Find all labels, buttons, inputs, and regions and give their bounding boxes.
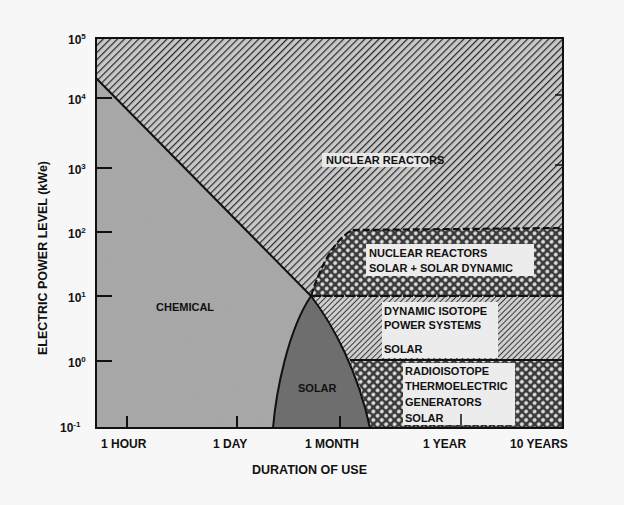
y-tick-1e1: 101 [68, 290, 86, 305]
x-tick-1-hour: 1 HOUR [101, 437, 147, 451]
label-solar: SOLAR [298, 382, 337, 394]
y-tick-1e3: 103 [68, 162, 86, 177]
y-axis-title: ELECTRIC POWER LEVEL (kWe) [36, 161, 50, 355]
label-dips-3: SOLAR [384, 343, 423, 355]
label-rtg-2: THERMOELECTRIC [405, 380, 508, 392]
label-nuclear-reactors: NUCLEAR REACTORS [326, 154, 444, 166]
label-dips-2: POWER SYSTEMS [384, 319, 481, 331]
y-tick-1e0: 100 [68, 355, 86, 370]
label-nuclear-solar-1: NUCLEAR REACTORS [369, 247, 487, 259]
x-tick-1-year: 1 YEAR [423, 437, 466, 451]
power-vs-duration-chart: NUCLEAR REACTORS CHEMICAL SOLAR NUCLEAR … [0, 0, 624, 505]
x-tick-1-month: 1 MONTH [305, 437, 359, 451]
label-dips-1: DYNAMIC ISOTOPE [384, 305, 487, 317]
x-tick-10-years: 10 YEARS [510, 437, 568, 451]
label-rtg-4: SOLAR [405, 412, 444, 424]
plot-area: NUCLEAR REACTORS CHEMICAL SOLAR NUCLEAR … [96, 38, 563, 428]
y-tick-1e4: 104 [68, 92, 86, 107]
y-tick-1e2: 102 [68, 226, 86, 241]
x-tick-1-day: 1 DAY [213, 437, 247, 451]
label-rtg-1: RADIOISOTOPE [405, 365, 489, 377]
x-axis-title: DURATION OF USE [252, 463, 367, 477]
label-nuclear-solar-2: SOLAR + SOLAR DYNAMIC [369, 262, 513, 274]
y-tick-1e5: 105 [68, 32, 86, 47]
label-chemical: CHEMICAL [156, 301, 214, 313]
y-tick-labels: 105 104 103 102 101 100 10-1 [60, 32, 86, 435]
x-tick-labels: 1 HOUR 1 DAY 1 MONTH 1 YEAR 10 YEARS [101, 437, 568, 451]
y-tick-1e-1: 10-1 [60, 420, 81, 435]
label-rtg-3: GENERATORS [405, 396, 482, 408]
